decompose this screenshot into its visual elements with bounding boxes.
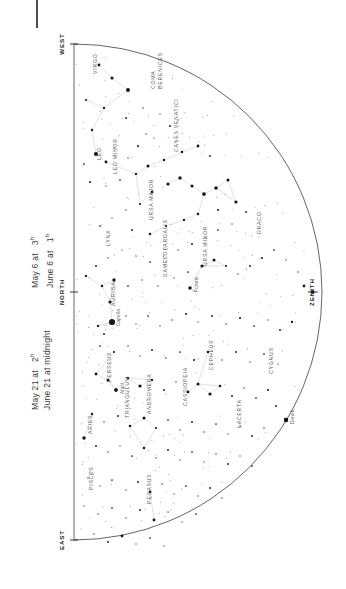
constellation-label-aries: ARIES bbox=[87, 415, 93, 434]
constellation-label-cepheus: CEPHEUS bbox=[208, 340, 214, 370]
caption-line: May 6 at 3h bbox=[26, 234, 41, 288]
caption-time: 3 bbox=[30, 240, 40, 245]
caption-time: 2 bbox=[30, 357, 40, 362]
cardinal-label-north: NORTH bbox=[58, 279, 65, 306]
star-label-algol: Algol bbox=[120, 383, 125, 394]
constellation-label-perseus: PERSEUS bbox=[106, 352, 112, 382]
constellation-label-ursa-major: URSA MAJOR bbox=[148, 179, 154, 220]
constellation-lines bbox=[84, 65, 236, 520]
caption-unit: h bbox=[29, 353, 35, 357]
caption-date: May 6 at bbox=[30, 253, 40, 288]
constellation-label-virgo: VIRGO bbox=[92, 54, 98, 74]
caption-line: May 21 at 2h bbox=[26, 330, 41, 410]
constellation-label-berenices: BERENICES bbox=[157, 52, 163, 89]
cardinal-label-west: WEST bbox=[58, 33, 65, 54]
cardinal-label-east: EAST bbox=[58, 530, 65, 550]
constellation-label-lacerta: LACERTA bbox=[236, 399, 242, 428]
constellation-label-coma: COMA bbox=[150, 70, 156, 89]
star-label-deneb: Deneb bbox=[290, 409, 295, 424]
page-crop-mark bbox=[36, 0, 38, 28]
constellation-label-leo-minor: LEO MINOR bbox=[112, 138, 118, 174]
constellation-label-pegasus: PEGASUS bbox=[146, 474, 152, 504]
sky-chart: VIRGOCOMABERENICESLEOLEO MINORCANES VENA… bbox=[40, 34, 336, 554]
star-label-capella: Capella bbox=[116, 309, 121, 326]
sky-canvas bbox=[40, 34, 336, 554]
caption-unit: h bbox=[29, 236, 35, 240]
constellation-label-andromeda: ANDROMEDA bbox=[146, 374, 152, 414]
cardinal-label-zenith: ZENITH bbox=[308, 278, 315, 306]
cardinal-ticks bbox=[70, 44, 318, 540]
star-chart-page: May 6 at 3h June 6 at 1h May 21 at 2h Ju… bbox=[0, 0, 346, 589]
constellation-label-canes-venatici: CANES VENATICI bbox=[173, 99, 179, 152]
constellation-label-pisces: PISCES bbox=[88, 466, 94, 490]
constellation-label-ursa-minor: URSA MINOR bbox=[202, 226, 208, 266]
constellation-label-cassiopeia: CASSIOPEIA bbox=[182, 367, 188, 406]
caption-date: May 21 at bbox=[30, 370, 40, 410]
constellation-label-lynx: LYNX bbox=[105, 230, 111, 246]
constellation-label-draco: DRACO bbox=[256, 212, 262, 234]
constellation-label-auriga: AURIGA bbox=[110, 282, 116, 306]
constellation-label-leo: LEO bbox=[96, 147, 102, 160]
constellation-label-cygnus: CYGNUS bbox=[268, 347, 274, 374]
star-label-polaris: Polaris bbox=[194, 277, 199, 292]
constellation-label-camelopardalis: CAMELOPARDALIS bbox=[162, 219, 168, 277]
